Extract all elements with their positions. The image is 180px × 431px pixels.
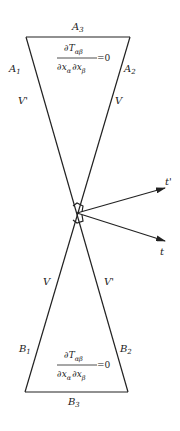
top-conservation-equation: ∂Tαβ ∂xα∂xβ =0 [57, 43, 111, 75]
label-a2: A2 [123, 63, 136, 76]
label-b1: B1 [18, 343, 31, 356]
label-b3: B3 [67, 396, 80, 409]
svg-text:∂xα∂xβ: ∂xα∂xβ [57, 369, 86, 382]
svg-text:∂Tαβ: ∂Tαβ [64, 43, 83, 56]
label-v-prime-top: V' [18, 95, 28, 106]
label-t: t [160, 246, 165, 257]
label-b2: B2 [119, 343, 132, 356]
vector-t-arrow [77, 213, 165, 241]
svg-text:∂Tαβ: ∂Tαβ [64, 350, 83, 363]
bottom-conservation-equation: ∂Tαβ ∂xα∂xβ =0 [57, 350, 111, 382]
label-a3: A3 [71, 21, 84, 34]
vector-t-prime-arrow [77, 188, 165, 213]
label-t-prime: t' [165, 176, 172, 187]
label-a1: A1 [8, 63, 21, 76]
label-v-prime-bottom: V' [104, 276, 114, 287]
label-v-top: V [115, 95, 124, 106]
svg-text:=0: =0 [97, 53, 111, 63]
svg-text:=0: =0 [97, 360, 111, 370]
hourglass-diagram: A3 A1 A2 V' V ∂Tαβ ∂xα∂xβ =0 t' t V V' B… [0, 0, 180, 431]
svg-text:∂xα∂xβ: ∂xα∂xβ [57, 62, 86, 75]
label-v-bottom: V [43, 276, 52, 287]
